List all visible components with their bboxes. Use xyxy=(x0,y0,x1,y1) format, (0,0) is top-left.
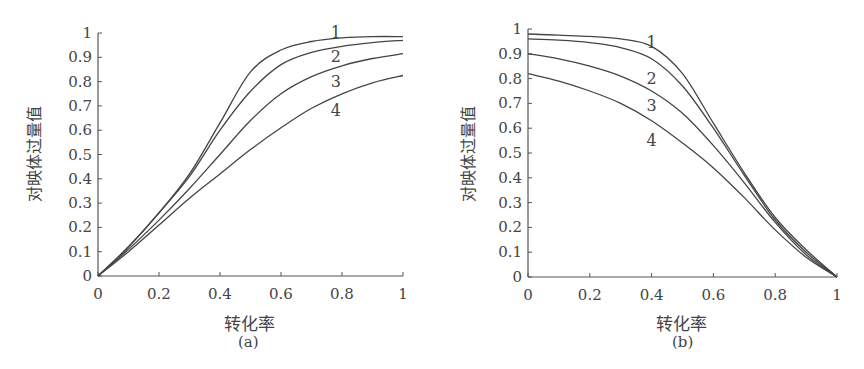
x-tick-label: 0.6 xyxy=(701,286,725,304)
series-line-4 xyxy=(98,76,403,277)
y-tick-label: 0 xyxy=(512,268,522,286)
x-tick-label: 0.2 xyxy=(578,286,602,304)
y-tick-label: 0.9 xyxy=(68,48,92,66)
y-tick-label: 0.9 xyxy=(498,45,522,63)
x-tick-label: 0 xyxy=(93,285,103,303)
chart-a-sublabel: (a) xyxy=(238,333,259,351)
y-tick-label: 0.8 xyxy=(68,73,92,91)
y-tick-label: 0.1 xyxy=(498,243,522,261)
y-tick-label: 0.6 xyxy=(68,121,92,139)
chart-b-xlabel: 转化率 xyxy=(656,310,707,335)
chart-panel-b: 00.10.20.30.40.50.60.70.80.9100.20.40.60… xyxy=(432,0,864,369)
y-tick-label: 0.4 xyxy=(498,169,522,187)
chart-a-plot: 00.10.20.30.40.50.60.70.80.9100.20.40.60… xyxy=(0,0,432,369)
chart-b-sublabel: (b) xyxy=(672,333,693,351)
x-tick-label: 1 xyxy=(832,286,842,304)
series-label-1: 1 xyxy=(331,23,341,42)
x-tick-label: 0.6 xyxy=(269,285,293,303)
chart-a-xlabel: 转化率 xyxy=(224,310,275,335)
y-tick-label: 0.8 xyxy=(498,70,522,88)
series-label-2: 2 xyxy=(647,69,657,88)
series-label-3: 3 xyxy=(331,72,341,91)
y-tick-label: 0 xyxy=(82,267,92,285)
y-tick-label: 1 xyxy=(512,20,522,38)
y-tick-label: 1 xyxy=(82,24,92,42)
series-line-4 xyxy=(528,74,837,277)
series-line-1 xyxy=(98,37,403,276)
y-tick-label: 0.2 xyxy=(68,218,92,236)
series-label-4: 4 xyxy=(331,101,341,120)
chart-a-ylabel: 对映体过量值 xyxy=(21,99,45,209)
x-tick-label: 0.2 xyxy=(147,285,171,303)
x-tick-label: 0.8 xyxy=(763,286,787,304)
x-tick-label: 0 xyxy=(523,286,533,304)
x-tick-label: 1 xyxy=(398,285,408,303)
y-tick-label: 0.2 xyxy=(498,218,522,236)
series-line-3 xyxy=(98,54,403,276)
y-tick-label: 0.7 xyxy=(498,94,522,112)
series-label-1: 1 xyxy=(647,33,657,52)
series-label-4: 4 xyxy=(647,131,657,150)
y-tick-label: 0.4 xyxy=(68,170,92,188)
series-line-2 xyxy=(98,40,403,276)
x-tick-label: 0.4 xyxy=(208,285,232,303)
y-tick-label: 0.7 xyxy=(68,97,92,115)
x-tick-label: 0.8 xyxy=(330,285,354,303)
series-label-3: 3 xyxy=(647,96,657,115)
series-label-2: 2 xyxy=(331,47,341,66)
x-tick-label: 0.4 xyxy=(640,286,664,304)
y-tick-label: 0.6 xyxy=(498,119,522,137)
y-tick-label: 0.1 xyxy=(68,243,92,261)
y-tick-label: 0.3 xyxy=(498,194,522,212)
y-tick-label: 0.5 xyxy=(498,144,522,162)
chart-panel-a: 00.10.20.30.40.50.60.70.80.9100.20.40.60… xyxy=(0,0,432,369)
chart-b-plot: 00.10.20.30.40.50.60.70.80.9100.20.40.60… xyxy=(432,0,864,369)
chart-b-ylabel: 对映体过量值 xyxy=(455,99,479,209)
y-tick-label: 0.5 xyxy=(68,146,92,164)
y-tick-label: 0.3 xyxy=(68,194,92,212)
